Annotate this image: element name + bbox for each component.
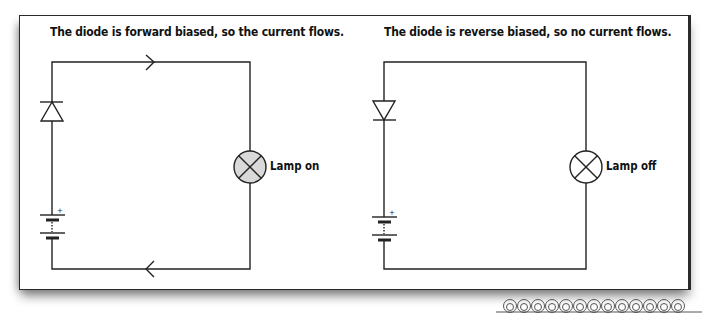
circuit-reverse-biased: + <box>372 62 602 269</box>
wire-top-left <box>52 62 250 151</box>
wire-bottom-right <box>384 183 586 269</box>
lamp-off-icon <box>570 151 602 183</box>
lamp-off-label: Lamp off <box>606 158 656 173</box>
diode-forward-icon <box>40 102 63 121</box>
wire-bottom-left <box>52 183 250 269</box>
lamp-on-icon <box>234 151 266 183</box>
svg-text:+: + <box>57 207 63 215</box>
svg-text:+: + <box>389 209 395 217</box>
lamp-on-label: Lamp on <box>270 158 319 173</box>
diode-reverse-icon <box>373 101 396 120</box>
caption-reverse-biased: The diode is reverse biased, so no curre… <box>384 24 671 39</box>
coil-decoration-icon <box>496 300 702 313</box>
wire-top-right <box>384 62 586 151</box>
circuit-diagrams: + + <box>0 0 710 314</box>
circuit-forward-biased: + <box>40 55 266 277</box>
caption-forward-biased: The diode is forward biased, so the curr… <box>50 24 344 39</box>
